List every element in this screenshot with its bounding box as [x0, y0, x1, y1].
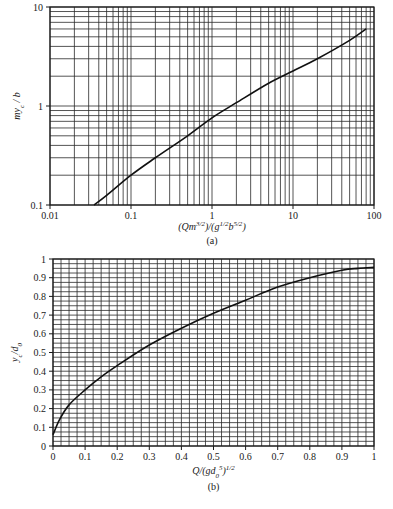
y-tick-label: 0.1 — [31, 200, 44, 211]
x-tick-label: 0.3 — [143, 451, 156, 462]
x-axis-label: (Qm3/2)/(g1/2b5/2) — [178, 220, 246, 233]
x-tick-label: 0.01 — [41, 210, 59, 221]
y-tick-label: 0.6 — [34, 328, 47, 339]
x-tick-label: 0.5 — [207, 451, 220, 462]
x-tick-label: 0.1 — [79, 451, 92, 462]
y-tick-label: 0.1 — [34, 422, 47, 433]
chart-b-linear-plot: 00.10.20.30.40.50.60.70.80.9100.10.20.30… — [9, 254, 377, 494]
y-tick-label: 0.9 — [34, 272, 47, 283]
x-tick-label: 0 — [51, 451, 56, 462]
y-tick-label: 0.2 — [34, 403, 47, 414]
x-tick-label: 0.4 — [175, 451, 188, 462]
y-tick-label: 0 — [41, 441, 46, 452]
y-tick-label: 1 — [41, 254, 46, 265]
x-tick-label: 0.8 — [304, 451, 317, 462]
x-tick-label: 1 — [210, 210, 215, 221]
y-tick-label: 0.3 — [34, 384, 47, 395]
chart-caption: (a) — [206, 235, 217, 247]
y-tick-label: 0.5 — [34, 347, 47, 358]
y-axis-label: myc / b — [11, 92, 26, 120]
x-axis-label: Q/(gd05)1/2 — [192, 464, 235, 480]
x-tick-label: 100 — [367, 210, 382, 221]
y-tick-label: 1 — [38, 101, 43, 112]
series-curve — [94, 29, 366, 205]
y-tick-label: 10 — [33, 2, 43, 13]
y-axis-label: yc/d0 — [9, 343, 24, 363]
y-tick-label: 0.7 — [34, 310, 47, 321]
x-tick-label: 0.9 — [336, 451, 349, 462]
y-tick-label: 0.8 — [34, 291, 47, 302]
x-tick-label: 1 — [372, 451, 377, 462]
x-tick-label: 0.7 — [271, 451, 284, 462]
chart-a-log-plot: 0.010.11101000.1110(Qm3/2)/(g1/2b5/2)myc… — [11, 2, 382, 248]
figure: 0.010.11101000.1110(Qm3/2)/(g1/2b5/2)myc… — [0, 0, 393, 509]
x-tick-label: 0.2 — [111, 451, 124, 462]
x-tick-label: 0.1 — [125, 210, 138, 221]
x-tick-label: 0.6 — [239, 451, 252, 462]
y-tick-label: 0.4 — [34, 366, 47, 377]
chart-caption: (b) — [208, 481, 220, 493]
x-tick-label: 10 — [288, 210, 298, 221]
